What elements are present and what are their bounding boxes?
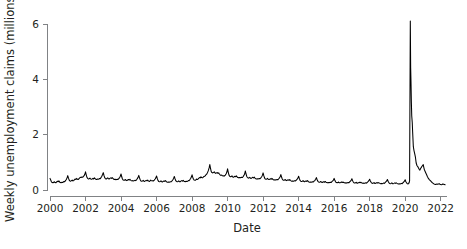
x-tick-label: 2016 (321, 202, 348, 214)
y-tick-label: 6 (32, 18, 39, 30)
x-tick-label: 2020 (392, 202, 419, 214)
y-tick-label: 2 (32, 128, 39, 140)
x-tick-label: 2012 (250, 202, 277, 214)
x-tick-group (50, 197, 441, 202)
x-tick-label: 2008 (179, 202, 206, 214)
chart-figure: 0246 20002002200420062008201020122014201… (0, 0, 467, 249)
y-tick-group (43, 25, 48, 191)
x-tick-label-group: 2000200220042006200820102012201420162018… (37, 202, 454, 214)
x-tick-label: 2000 (37, 202, 64, 214)
x-axis-title: Date (233, 221, 261, 235)
y-tick-label-group: 0246 (32, 18, 39, 196)
x-tick-label: 2018 (356, 202, 383, 214)
y-axis-title: Weekly unemployment claims (millions) (3, 0, 17, 222)
axes-group (48, 25, 447, 197)
x-tick-label: 2004 (108, 202, 135, 214)
x-tick-label: 2022 (427, 202, 454, 214)
y-tick-label: 0 (32, 184, 39, 196)
x-tick-label: 2010 (214, 202, 241, 214)
x-tick-label: 2006 (143, 202, 170, 214)
x-tick-label: 2002 (72, 202, 99, 214)
claims-series-line (50, 21, 445, 185)
line-chart: 0246 20002002200420062008201020122014201… (0, 0, 467, 249)
y-tick-label: 4 (32, 73, 39, 85)
x-tick-label: 2014 (285, 202, 312, 214)
